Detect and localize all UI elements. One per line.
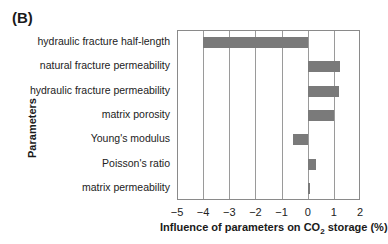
category-label: hydraulic fracture permeability [30,84,170,96]
x-axis-label: Influence of parameters on CO2 storage (… [160,221,388,236]
bar [308,159,316,170]
category-label: Poisson's ratio [102,157,170,169]
gridline [255,31,256,199]
x-tick-label: −3 [219,206,239,218]
bar [308,110,334,121]
x-tick-label: −4 [193,206,213,218]
category-label: matrix porosity [102,108,170,120]
plot-area [177,30,360,200]
x-tick-label: −1 [272,206,292,218]
x-tick-label: 0 [298,206,318,218]
category-label: hydraulic fracture half-length [38,35,171,47]
gridline [282,31,283,199]
x-axis-label-suffix: storage (%) [325,221,388,233]
bar [203,37,308,48]
x-tick-label: −2 [245,206,265,218]
x-tick-label: 2 [350,206,370,218]
bar [293,134,307,145]
gridline [229,31,230,199]
bar [308,61,341,72]
gridline [334,31,335,199]
category-label: natural fracture permeability [40,59,170,71]
x-tick-label: −5 [167,206,187,218]
category-label: Young's modulus [91,132,170,144]
gridline [203,31,204,199]
category-label: matrix permeability [82,181,170,193]
y-axis-label: Parameters [26,88,38,168]
x-axis-label-text: Influence of parameters on CO [160,221,320,233]
bar [308,86,339,97]
panel-label: (B) [12,9,33,26]
x-tick-label: 1 [324,206,344,218]
bar [308,183,310,194]
